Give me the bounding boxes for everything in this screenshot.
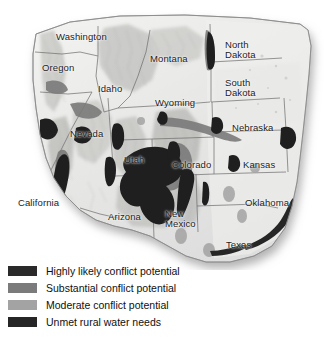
legend-row-substantial: Substantial conflict potential bbox=[8, 279, 248, 296]
legend-label-unmet-rural: Unmet rural water needs bbox=[46, 316, 161, 328]
legend-row-unmet-rural: Unmet rural water needs bbox=[8, 313, 248, 330]
legend-row-highly-likely: Highly likely conflict potential bbox=[8, 262, 248, 279]
map-area: Washington Oregon Idaho Montana North Da… bbox=[0, 0, 324, 270]
legend-row-moderate: Moderate conflict potential bbox=[8, 296, 248, 313]
legend-label-highly-likely: Highly likely conflict potential bbox=[46, 265, 180, 277]
legend-swatch-substantial-icon bbox=[8, 283, 37, 293]
legend-swatch-moderate-icon bbox=[8, 300, 37, 310]
map-legend: Highly likely conflict potential Substan… bbox=[8, 262, 248, 336]
legend-swatch-unmet-rural-icon bbox=[8, 317, 37, 327]
legend-label-substantial: Substantial conflict potential bbox=[46, 282, 176, 294]
figure-container: Washington Oregon Idaho Montana North Da… bbox=[0, 0, 324, 343]
legend-label-moderate: Moderate conflict potential bbox=[46, 299, 169, 311]
legend-swatch-highly-likely-icon bbox=[8, 266, 37, 276]
relief-map-svg bbox=[0, 0, 324, 270]
